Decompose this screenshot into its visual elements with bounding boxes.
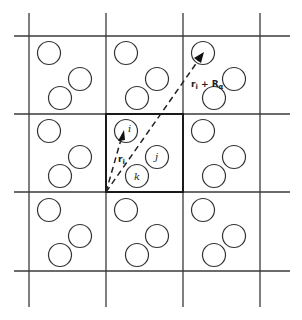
label-j: j [153,151,158,162]
grid-lines [14,13,290,307]
label-k: k [134,171,140,182]
label-ri: ri [118,154,125,166]
vector-ri-plus-R [106,52,204,192]
molecules [38,42,246,267]
periodic-cells-diagram: i j k ri ri + Rα [0,0,302,320]
particle-i [115,120,138,143]
label-i: i [128,123,131,134]
